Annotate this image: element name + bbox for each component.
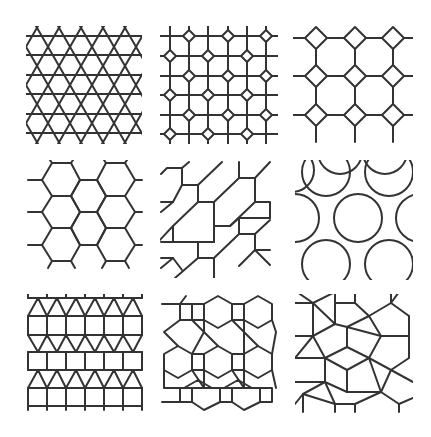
horizontal-lines [26,36,142,133]
tile-circles-triangles [295,160,413,280]
circles [295,160,413,280]
squares [305,27,404,126]
tile-square-grid-diamonds [160,26,278,144]
grid-lines [160,26,278,144]
diagonal-lines-down [26,26,142,144]
diamonds [164,30,272,140]
polygons [295,294,413,412]
tile-truncated-square [293,24,413,146]
tile-snub-square [295,294,413,414]
tile-rhombitrihexagonal [160,294,278,414]
tile-hexagonal [26,160,144,280]
triangles [28,298,142,388]
tile-elongated-triangular [26,294,144,416]
tile-skewed-hexagonal [160,160,278,278]
tile-trihexagonal [26,26,142,144]
connectors [293,38,413,142]
diagonal-lines-up [26,26,142,144]
hexagons [42,163,135,261]
sheared-hexagons [160,162,270,278]
